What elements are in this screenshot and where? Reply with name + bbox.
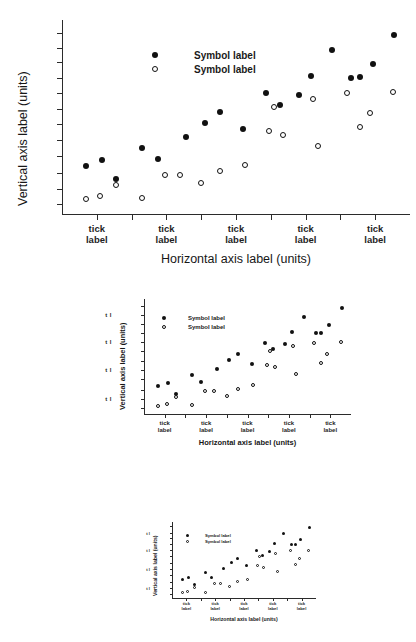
data-point-series-1 — [155, 156, 161, 162]
y-axis-tick — [141, 379, 144, 380]
x-axis-tick — [306, 215, 307, 220]
data-point-series-1 — [181, 578, 184, 581]
x-axis-tick — [340, 215, 341, 220]
data-point-series-1 — [245, 564, 248, 567]
data-point-series-2 — [203, 389, 207, 393]
y-tick-label: t l — [86, 367, 112, 373]
data-point-series-2 — [177, 172, 183, 178]
x-tick-label: tick label — [145, 420, 185, 433]
y-axis-tick — [141, 390, 144, 391]
data-point-series-2 — [97, 193, 103, 199]
data-point-series-2 — [236, 580, 239, 583]
data-point-series-1 — [348, 75, 354, 81]
y-axis-tick — [170, 533, 172, 534]
legend-item: Symbol label — [152, 62, 256, 76]
plot-area-medium: Symbol labelSymbol label — [144, 299, 351, 415]
x-tick-label: tick label — [200, 602, 230, 611]
data-point-series-2 — [256, 564, 259, 567]
data-point-series-2 — [83, 196, 89, 202]
plot-area-small: Symbol labelSymbol label — [172, 522, 316, 599]
data-point-series-1 — [210, 576, 213, 579]
x-axis-tick — [248, 415, 249, 418]
y-axis-tick — [170, 526, 172, 527]
y-axis-tick — [141, 315, 144, 316]
data-point-series-2 — [280, 132, 286, 138]
data-point-series-1 — [273, 542, 276, 545]
legend-label: Symbol label — [194, 64, 256, 75]
data-point-series-1 — [250, 362, 254, 366]
scatter-figure-small: Vertical axis label (units) Symbol label… — [140, 512, 330, 634]
x-axis-tick — [268, 415, 269, 418]
data-point-series-2 — [291, 344, 295, 348]
x-axis-tick — [97, 215, 98, 220]
x-axis-tick — [230, 599, 231, 601]
y-axis-tick — [57, 124, 62, 125]
data-point-series-2 — [325, 352, 329, 356]
y-axis-line — [62, 20, 63, 215]
y-axis-tick — [57, 78, 62, 79]
data-point-series-2 — [190, 403, 194, 407]
data-point-series-1 — [391, 32, 397, 38]
x-axis-tick — [258, 599, 259, 601]
data-point-series-1 — [236, 352, 240, 356]
data-point-series-1 — [329, 47, 335, 53]
x-axis-tick — [206, 415, 207, 418]
data-point-series-2 — [294, 563, 297, 566]
data-point-series-1 — [83, 163, 89, 169]
data-point-series-2 — [246, 578, 249, 581]
y-axis-tick — [170, 563, 172, 564]
data-point-series-2 — [339, 340, 343, 344]
x-axis-tick — [166, 215, 167, 220]
data-point-series-2 — [217, 168, 223, 174]
x-tick-label: tick label — [67, 224, 127, 245]
y-axis-title-medium: Vertical axis label (units) — [118, 322, 127, 410]
y-axis-tick — [141, 399, 144, 400]
data-point-series-2 — [219, 582, 222, 585]
data-point-series-2 — [357, 124, 363, 130]
data-point-series-1 — [215, 367, 219, 371]
y-axis-tick — [170, 569, 172, 570]
data-point-series-1 — [236, 557, 239, 560]
data-point-series-1 — [166, 381, 170, 385]
data-point-series-2 — [390, 89, 396, 95]
x-axis-tick — [287, 599, 288, 601]
data-point-series-1 — [263, 90, 269, 96]
open-circle-icon — [152, 66, 158, 72]
scatter-figure-medium: Vertical axis label (units) Symbol label… — [104, 286, 362, 461]
data-point-series-2 — [276, 570, 279, 573]
data-point-series-2 — [271, 104, 277, 110]
filled-circle-icon — [152, 52, 158, 58]
data-point-series-1 — [277, 102, 283, 108]
data-point-series-1 — [139, 145, 145, 151]
y-tick-label: t l — [86, 339, 112, 345]
legend-label: Symbol label — [188, 324, 225, 330]
legend-label: Symbol label — [205, 539, 231, 544]
y-axis-tick — [57, 109, 62, 110]
data-point-series-1 — [204, 571, 207, 574]
data-point-series-1 — [268, 550, 271, 553]
y-axis-tick — [57, 62, 62, 63]
data-point-series-1 — [183, 134, 189, 140]
y-axis-tick — [57, 189, 62, 190]
data-point-series-1 — [290, 330, 294, 334]
data-point-series-2 — [315, 143, 321, 149]
x-axis-title-large: Horizontal axis label (units) — [62, 252, 410, 266]
data-point-series-1 — [240, 126, 246, 132]
legend-label: Symbol label — [205, 533, 231, 538]
y-axis-tick — [170, 538, 172, 539]
open-circle-icon — [162, 325, 166, 329]
x-tick-label: tick label — [228, 420, 268, 433]
y-axis-title-small: Vertical axis label (units) — [152, 535, 158, 596]
filled-circle-icon — [162, 316, 166, 320]
y-axis-tick — [170, 556, 172, 557]
data-point-series-2 — [274, 552, 277, 555]
data-point-series-2 — [181, 591, 184, 594]
chart-legend: Symbol labelSymbol label — [162, 313, 225, 331]
y-axis-tick — [57, 33, 62, 34]
y-axis-tick — [170, 575, 172, 576]
data-point-series-1 — [302, 315, 306, 319]
y-axis-tick — [170, 588, 172, 589]
y-axis-tick — [141, 306, 144, 307]
data-point-series-2 — [319, 361, 323, 365]
x-axis-tick — [375, 215, 376, 220]
